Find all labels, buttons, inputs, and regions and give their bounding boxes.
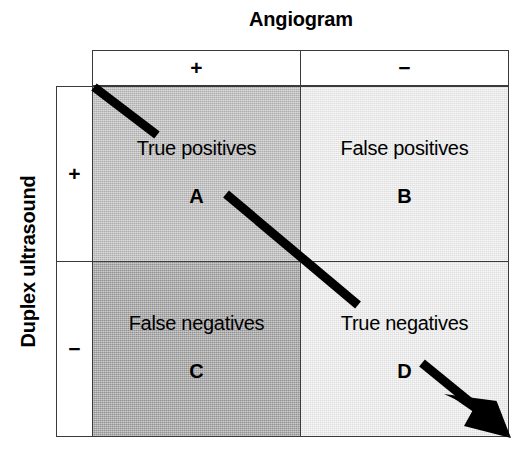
row-header-negative: − [56, 261, 93, 437]
cell-a-letter: A [93, 185, 300, 208]
contingency-table-figure: Angiogram Duplex ultrasound + − + − True… [0, 0, 529, 456]
cell-d-letter: D [301, 360, 508, 383]
cell-b-label: False positives [301, 137, 508, 160]
column-header-positive: + [92, 50, 301, 86]
cell-c-label: False negatives [93, 312, 300, 335]
cell-d-label: True negatives [301, 312, 508, 335]
row-group-title: Duplex ultrasound [17, 175, 40, 347]
cell-b-letter: B [301, 185, 508, 208]
cell-false-negatives: False negatives C [92, 261, 301, 437]
cell-a-label: True positives [93, 137, 300, 160]
cell-false-positives: False positives B [300, 86, 509, 262]
row-group-title-container: Duplex ultrasound [0, 86, 56, 437]
cell-true-negatives: True negatives D [300, 261, 509, 437]
column-group-title: Angiogram [93, 8, 509, 31]
cell-c-letter: C [93, 360, 300, 383]
row-header-positive: + [56, 86, 93, 262]
cell-true-positives: True positives A [92, 86, 301, 262]
column-header-negative: − [300, 50, 509, 86]
